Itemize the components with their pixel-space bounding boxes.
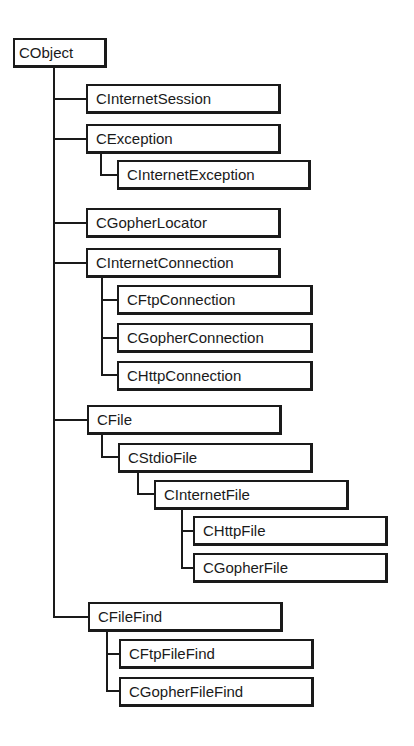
class-box-cfile: CFile [87, 405, 282, 435]
connector-cinternetconnection [53, 262, 87, 264]
class-box-cfilefind: CFileFind [88, 602, 283, 632]
connector-cstdiofile-trunk [137, 471, 139, 495]
connector-cinternetconnection-trunk [101, 276, 103, 376]
connector-cfile-trunk [101, 433, 103, 458]
class-box-cftpfilefind: CFtpFileFind [119, 639, 314, 669]
connector-cstdiofile [101, 456, 119, 458]
class-box-cobject: CObject [13, 38, 107, 68]
class-box-cinternetexception: CInternetException [117, 160, 311, 190]
connector-cinternetexception [100, 174, 118, 176]
connector-cinternetsession [53, 98, 87, 100]
connector-cinternetfile [137, 493, 155, 495]
class-box-cgopherfilefind: CGopherFileFind [119, 677, 314, 707]
class-box-cexception: CException [86, 124, 281, 154]
class-box-cstdiofile: CStdioFile [118, 443, 313, 473]
connector-cfilefind-trunk [106, 630, 108, 692]
class-box-cgopherfile: CGopherFile [193, 553, 388, 583]
connector-cgopherfilefind [106, 690, 120, 692]
connector-cfile [53, 419, 87, 421]
connector-cinternetfile-trunk [181, 508, 183, 569]
class-box-chttpfile: CHttpFile [193, 516, 388, 546]
class-box-cftpconnection: CFtpConnection [117, 285, 313, 315]
class-box-cgopherconnection: CGopherConnection [117, 323, 313, 353]
connector-cfilefind [53, 616, 89, 618]
class-box-cinternetconnection: CInternetConnection [86, 248, 281, 278]
connector-cgopherconnection [101, 337, 118, 339]
class-box-cinternetfile: CInternetFile [154, 480, 349, 510]
class-box-cgopherlocator: CGopherLocator [86, 208, 281, 238]
connector-cftpfilefind [106, 653, 120, 655]
connector-cexception-trunk [100, 152, 102, 176]
class-box-chttpconnection: CHttpConnection [117, 361, 313, 391]
connector-cgopherlocator [53, 222, 87, 224]
connector-chttpconnection [101, 374, 118, 376]
connector-cobject-trunk [53, 66, 55, 618]
class-box-cinternetsession: CInternetSession [86, 84, 281, 114]
connector-cexception [53, 138, 87, 140]
connector-cftpconnection [101, 299, 118, 301]
